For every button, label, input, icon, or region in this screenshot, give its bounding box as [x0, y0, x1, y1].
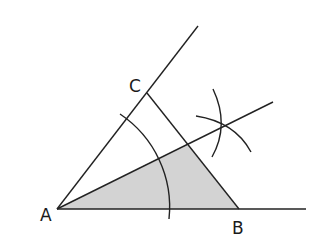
shaded-triangle	[57, 145, 239, 209]
label-b: B	[232, 218, 244, 238]
label-a: A	[40, 205, 52, 225]
construction-diagram: A B C	[0, 0, 324, 250]
label-c: C	[129, 76, 141, 96]
construction-arc-2	[196, 116, 251, 152]
